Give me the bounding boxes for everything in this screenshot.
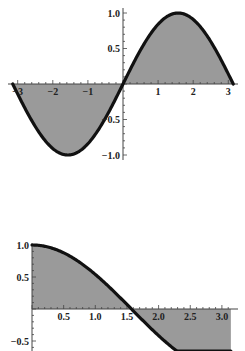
x-tick-label: 2.0	[152, 311, 165, 322]
x-tick-label: 2	[191, 86, 196, 97]
y-tick-label: −1.0	[102, 150, 120, 161]
y-tick-label: 1.0	[17, 240, 30, 251]
x-tick-label: 1.0	[89, 311, 102, 322]
sine-plot: −3−2−11231.00.5−0.5−1.0	[8, 8, 238, 161]
x-tick-label: 3.0	[216, 311, 229, 322]
x-tick-label: −2	[47, 86, 58, 97]
x-tick-label: 2.5	[184, 311, 197, 322]
y-tick-label: 1.0	[108, 8, 121, 19]
x-tick-label: 1.5	[121, 311, 134, 322]
cosine-fill-area	[32, 245, 231, 351]
y-tick-label: −0.5	[102, 114, 120, 125]
x-tick-label: 0.5	[57, 311, 70, 322]
x-tick-label: 3	[226, 86, 231, 97]
y-tick-label: 0.5	[108, 43, 121, 54]
x-tick-label: 1	[156, 86, 161, 97]
cosine-plot: 0.51.01.52.02.53.01.00.5−0.5	[11, 240, 238, 351]
x-tick-label: −3	[12, 86, 23, 97]
chart-canvas: −3−2−11231.00.5−0.5−1.0 0.51.01.52.02.53…	[0, 0, 245, 351]
x-tick-label: −1	[83, 86, 94, 97]
y-tick-label: −0.5	[11, 336, 29, 347]
y-tick-label: 0.5	[17, 272, 30, 283]
